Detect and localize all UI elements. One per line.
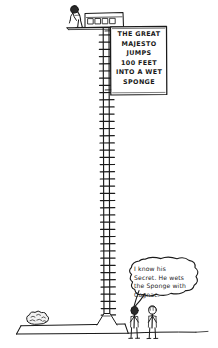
bush-shrub: [27, 311, 49, 324]
billboard-sign: [105, 26, 167, 95]
cartoon-drawing-canvas: [0, 0, 218, 348]
cartoon-illustration: THE GREAT MAJESTO JUMPS 100 FEET INTO A …: [0, 0, 218, 348]
